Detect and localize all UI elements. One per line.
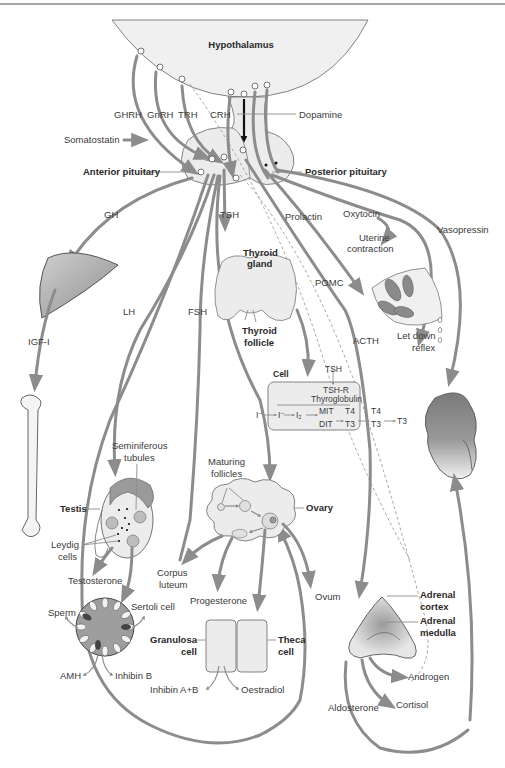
- thyroid-to-cell-arrow: [297, 310, 308, 370]
- granulosa-label-1: Granulosa: [150, 634, 198, 645]
- oestradiol-label: Oestradiol: [241, 684, 284, 695]
- t3-out-label: T3: [371, 419, 381, 429]
- gnrh-label: GnRH: [147, 109, 174, 120]
- t3-final-label: T3: [397, 416, 407, 426]
- theca-label-2: cell: [278, 646, 294, 657]
- progesterone-arrow: [218, 538, 232, 585]
- progesterone-label: Progesterone: [190, 595, 247, 606]
- androgen-arrow: [370, 658, 402, 677]
- t4-out-label: T4: [371, 406, 381, 416]
- inhibin-ab-label: Inhibin A+B: [150, 684, 198, 695]
- leydig-label-1: Leydig: [51, 539, 79, 550]
- adrenal-cortex-label-1: Adrenal: [420, 589, 455, 600]
- inhibin-b-arrow: [102, 655, 112, 675]
- fsh-label: FSH: [188, 306, 207, 317]
- thyroid-gland-label-2: gland: [247, 258, 273, 269]
- thyroid-follicle-label-1: Thyroid: [242, 325, 277, 336]
- letdown-label-2: reflex: [412, 342, 435, 353]
- testis-label: Testis: [60, 503, 87, 514]
- uterine-label-2: contraction: [347, 243, 393, 254]
- t3-in-label: T3: [345, 419, 355, 429]
- posterior-pituitary-label: Posterior pituitary: [305, 166, 388, 177]
- seminiferous-label-2: tubules: [124, 452, 155, 463]
- oxytocin-label: Oxytocin: [343, 208, 380, 219]
- thyroglobulin-label: Thyroglobulin: [311, 394, 362, 404]
- sperm-label: Sperm: [48, 607, 76, 618]
- igf-label: IGF-I: [28, 336, 50, 347]
- maturing-label-1: Maturing: [208, 456, 245, 467]
- sertoli-label: Sertoli cell: [131, 601, 175, 612]
- aldosterone-kidney-arrow: [455, 480, 472, 720]
- gh-arrow: [70, 178, 192, 262]
- bone: [21, 395, 41, 537]
- ovary-granulosa-arrow: [258, 530, 265, 605]
- pomc-label: POMC: [315, 277, 344, 288]
- thyroid-follicle-label-2: follicle: [244, 337, 274, 348]
- uterine-label-1: Uterine: [359, 232, 390, 243]
- somatostatin-label: Somatostatin: [64, 134, 119, 145]
- corpus-label-1: Corpus: [157, 567, 188, 578]
- lh-label: LH: [123, 306, 135, 317]
- tsh-label: TSH: [220, 209, 239, 220]
- adrenal-medulla-label-2: medulla: [420, 627, 457, 638]
- leydig-label-2: cells: [58, 551, 77, 562]
- granulosa-theca-cells: [196, 620, 276, 672]
- granulosa-label-2: cell: [181, 646, 197, 657]
- seminiferous-label-1: Seminiferous: [112, 440, 168, 451]
- mit-label: MIT: [319, 406, 334, 416]
- cortisol-label: Cortisol: [396, 699, 428, 710]
- kidney: [425, 393, 476, 479]
- acth-label: ACTH: [353, 335, 379, 346]
- androgen-label: Androgen: [408, 671, 449, 682]
- crh-label: CRH: [210, 109, 231, 120]
- dopamine-label: Dopamine: [299, 109, 342, 120]
- t4-in-label: T4: [345, 406, 355, 416]
- iodine-label: I₂: [296, 410, 302, 420]
- adrenal-cortex-label-2: cortex: [420, 601, 449, 612]
- corpus-label-2: luteum: [159, 579, 188, 590]
- dit-label: DIT: [319, 419, 333, 429]
- thyroid-gland-label-1: Thyroid: [243, 247, 278, 258]
- ghrh-label: GHRH: [114, 109, 142, 120]
- cell-tsh-label: TSH: [325, 364, 342, 374]
- adrenal-medulla-label-1: Adrenal: [420, 615, 455, 626]
- gh-label: GH: [104, 209, 118, 220]
- vasopressin-label: Vasopressin: [437, 224, 489, 235]
- liver: [40, 253, 118, 318]
- tubule-cross-section: [76, 598, 134, 656]
- ovary-label: Ovary: [306, 502, 334, 513]
- theca-label-1: Theca: [278, 634, 306, 645]
- anterior-pituitary-label: Anterior pituitary: [83, 166, 161, 177]
- hypothalamus: Hypothalamus: [112, 20, 368, 97]
- amh-label: AMH: [60, 670, 81, 681]
- inhibin-b-label: Inhibin B: [115, 670, 152, 681]
- maturing-label-2: follicles: [211, 468, 242, 479]
- cell-label: Cell: [273, 369, 289, 379]
- adrenal-gland: [349, 596, 418, 658]
- trh-label: TRH: [178, 109, 198, 120]
- iodide-out-label: I⁻: [256, 410, 263, 420]
- testosterone-arrow: [96, 548, 112, 570]
- aldosterone-label: Aldosterone: [328, 702, 379, 713]
- prolactin-label: Prolactin: [285, 211, 322, 222]
- hypothalamus-label: Hypothalamus: [208, 39, 273, 50]
- corpus-luteum-arrow: [186, 536, 222, 560]
- ovum-label: Ovum: [315, 591, 340, 602]
- letdown-label-1: Let down: [397, 330, 436, 341]
- endocrine-diagram: Hypothalamus GHRH GnRH TRH CRH Dopamine …: [0, 0, 505, 768]
- testosterone-label: Testosterone: [68, 575, 122, 586]
